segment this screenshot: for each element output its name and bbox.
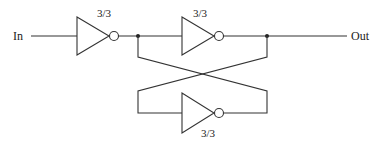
- inverter-2: 3/3: [182, 7, 224, 55]
- inverter-1-body: [77, 17, 109, 55]
- inverter-1: 3/3: [77, 7, 119, 55]
- inverter-2-bubble: [215, 32, 224, 41]
- inverter-1-bubble: [110, 32, 119, 41]
- inverter-1-size-label: 3/3: [97, 7, 112, 19]
- inverter-3-size-label: 3/3: [201, 127, 216, 139]
- output-label: Out: [351, 29, 370, 43]
- inverter-3: 3/3: [182, 93, 224, 139]
- feedback-wire-b: [138, 36, 267, 113]
- inverter-2-size-label: 3/3: [193, 7, 208, 19]
- circuit-diagram: In 3/3 3/3 Out 3/3: [0, 0, 381, 141]
- input-label: In: [13, 29, 23, 43]
- inverter-2-body: [182, 17, 214, 55]
- inverter-3-bubble: [215, 109, 224, 118]
